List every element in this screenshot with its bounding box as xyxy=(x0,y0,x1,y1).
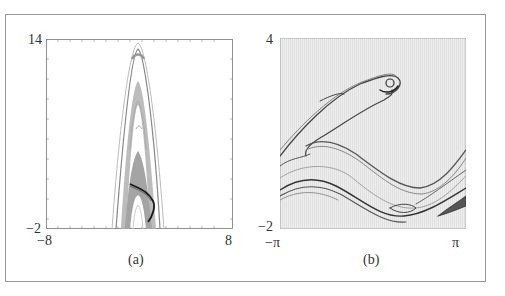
panel-b-y-min-label: −2 xyxy=(258,220,273,234)
panel-a-plot xyxy=(46,39,233,229)
panel-a-x-min-label: −8 xyxy=(37,234,52,248)
panel-b-x-max-label: π xyxy=(452,236,459,250)
panel-a-y-max-label: 14 xyxy=(28,33,42,47)
panel-b-plot xyxy=(280,38,466,229)
panel-b-x-min-label: −π xyxy=(265,236,280,250)
panel-b-caption: (b) xyxy=(363,253,379,267)
panel-a-plot-svg xyxy=(46,39,233,229)
panel-a-caption: (a) xyxy=(128,253,144,267)
panel-b-plot-svg xyxy=(280,38,466,229)
panel-b-y-max-label: 4 xyxy=(266,33,273,47)
panel-a-x-max-label: 8 xyxy=(225,234,232,248)
